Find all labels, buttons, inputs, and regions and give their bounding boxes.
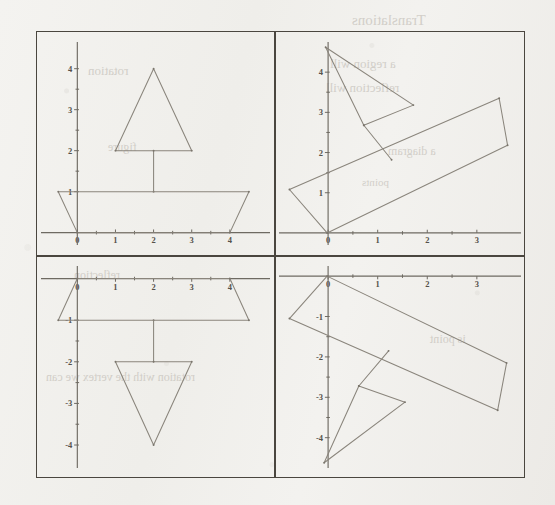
sail-triangle xyxy=(115,362,191,445)
hull-trapezoid xyxy=(289,98,507,233)
plot-rotated-figure: 01231234 xyxy=(275,32,525,255)
x-axis: 01234 xyxy=(41,229,270,244)
shape-vertex xyxy=(153,361,155,363)
x-tick-label: 1 xyxy=(376,235,380,245)
shape-vertex xyxy=(248,191,250,193)
x-tick-label: 1 xyxy=(376,279,380,289)
shape-vertex xyxy=(326,232,328,234)
shape-vertex xyxy=(404,401,406,403)
mast-segment xyxy=(364,125,392,160)
shape-vertex xyxy=(391,159,393,161)
y-tick-label: 2 xyxy=(319,148,323,158)
shape-vertex xyxy=(153,68,155,70)
shape-vertex xyxy=(76,278,78,280)
bleed-through-text: Translations xyxy=(352,12,426,29)
panel-reflected-figure: 01234-1-2-3-4 xyxy=(37,256,274,478)
y-axis: -1-2-3-4 xyxy=(316,266,330,468)
shape-vertex xyxy=(326,275,328,277)
y-tick-label: -2 xyxy=(65,357,72,367)
x-tick-label: 3 xyxy=(475,235,479,245)
shape-vertex xyxy=(288,189,290,191)
panel-rotated-reflected-figure: 0123-1-2-3-4 xyxy=(275,256,525,478)
shape-vertex xyxy=(388,350,390,352)
sail-triangle xyxy=(324,386,405,463)
panel-original-figure: 012341234 xyxy=(37,32,274,255)
x-tick-label: 2 xyxy=(425,279,429,289)
hull-trapezoid xyxy=(58,192,249,233)
shape-vertex xyxy=(363,124,365,126)
x-tick-label: 3 xyxy=(190,235,194,245)
y-axis: 1234 xyxy=(319,42,330,245)
panel-rotated-figure: 01231234 xyxy=(275,32,525,255)
shape-vertex xyxy=(153,150,155,152)
y-tick-label: 4 xyxy=(68,64,73,74)
sail-triangle xyxy=(115,69,191,151)
y-axis: -1-2-3-4 xyxy=(65,266,79,468)
x-tick-label: 1 xyxy=(113,282,117,292)
x-axis: 0123 xyxy=(279,274,521,289)
shape-vertex xyxy=(506,362,508,364)
y-tick-label: 2 xyxy=(68,146,72,156)
shape-vertex xyxy=(507,144,509,146)
shape-vertex xyxy=(248,319,250,321)
shape-vertex xyxy=(229,232,231,234)
shape-vertex xyxy=(115,150,117,152)
shape-vertex xyxy=(288,318,290,320)
shape-vertex xyxy=(76,232,78,234)
figure-frame: 012341234 01231234 01234-1-2-3-4 0123-1-… xyxy=(36,31,525,478)
x-tick-label: 3 xyxy=(475,279,479,289)
plot-original-figure: 012341234 xyxy=(37,32,274,255)
y-tick-label: 3 xyxy=(319,107,323,117)
shape-vertex xyxy=(325,46,327,48)
y-tick-label: -3 xyxy=(316,392,323,402)
shape-vertex xyxy=(497,409,499,411)
shape-vertex xyxy=(57,319,59,321)
y-tick-label: 1 xyxy=(319,188,323,198)
y-axis: 1234 xyxy=(68,42,79,245)
shape-vertex xyxy=(358,385,360,387)
y-tick-label: -3 xyxy=(65,398,72,408)
plot-rotated-reflected-figure: 0123-1-2-3-4 xyxy=(275,256,525,478)
x-tick-label: 4 xyxy=(228,235,233,245)
y-tick-label: -4 xyxy=(65,440,73,450)
shape-vertex xyxy=(412,104,414,106)
y-tick-label: -4 xyxy=(316,433,324,443)
y-tick-label: 3 xyxy=(68,105,72,115)
hull-trapezoid xyxy=(289,276,506,410)
shape-vertex xyxy=(191,361,193,363)
shape-vertex xyxy=(153,444,155,446)
y-tick-label: 4 xyxy=(319,67,324,77)
sail-triangle xyxy=(326,47,414,125)
shape-vertex xyxy=(57,191,59,193)
y-tick-label: -2 xyxy=(316,352,323,362)
x-tick-label: 2 xyxy=(151,235,155,245)
shape-vertex xyxy=(323,462,325,464)
x-tick-label: 1 xyxy=(113,235,117,245)
x-tick-label: 2 xyxy=(151,282,155,292)
shape-vertex xyxy=(115,361,117,363)
shape-vertex xyxy=(229,278,231,280)
y-tick-label: -1 xyxy=(316,312,323,322)
shape-vertex xyxy=(191,150,193,152)
shape-vertex xyxy=(498,97,500,99)
x-axis: 0123 xyxy=(279,230,521,245)
x-tick-label: 2 xyxy=(425,235,429,245)
x-tick-label: 3 xyxy=(190,282,194,292)
plot-reflected-figure: 01234-1-2-3-4 xyxy=(37,256,274,478)
